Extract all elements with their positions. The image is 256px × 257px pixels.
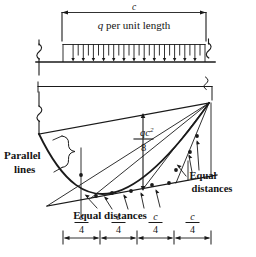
tangent-point [167,181,171,185]
tangent-point [195,134,199,138]
beam-moment-figure: c q per unit length qc2 8 Parallel lines… [0,0,256,257]
quarter-denominator-4: 4 [190,224,195,235]
quarter-denominator-3: 4 [153,224,158,235]
load-label-text: per unit length [103,19,170,31]
parallel-lines-label-line2: lines [14,163,36,175]
quarter-denominator-1: 4 [79,224,84,235]
quarter-numerator-3: c [153,211,158,222]
max-moment-denominator: 8 [141,142,146,153]
figure-canvas: c q per unit length qc2 8 Parallel lines… [0,0,256,257]
tangent-point [129,189,133,193]
quarter-numerator-1: c [79,211,84,222]
equal-distances-bottom-label: Equal distances [73,209,147,221]
tangent-point [174,168,178,172]
load-label: q per unit length [98,19,171,31]
equal-distances-right-label-line2: distances [192,183,233,194]
tangent-point [110,191,114,195]
parallel-lines-label-line1: Parallel [4,149,41,161]
tangent-point [79,173,83,177]
tangent-point [188,150,192,154]
quarter-numerator-2: c [116,211,121,222]
tangent-point [94,194,98,198]
quarter-numerator-4: c [190,211,195,222]
max-moment-exponent: 2 [150,126,154,134]
quarter-denominator-2: 4 [116,224,121,235]
tangent-point [150,183,154,187]
equal-distances-right-label-line1: Equal [190,170,217,181]
